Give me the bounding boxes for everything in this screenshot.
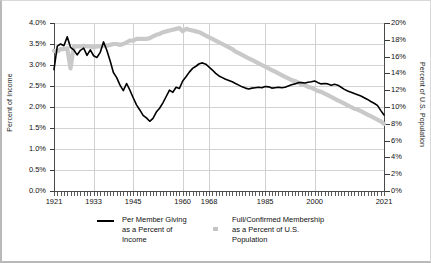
- x-tick-mark: [156, 192, 157, 196]
- x-tick-label: 1968: [201, 197, 218, 206]
- chart-legend: Per Member Giving as a Percent of Income…: [97, 215, 397, 259]
- x-tick-mark: [222, 192, 223, 196]
- y-tick-label-right: 6%: [391, 137, 402, 145]
- x-tick-mark: [318, 192, 319, 196]
- x-tick-mark: [292, 192, 293, 196]
- x-tick-mark: [84, 192, 85, 196]
- x-tick-label: 1933: [85, 197, 102, 206]
- x-tick-mark: [358, 192, 359, 196]
- legend-label-membership: Full/Confirmed Membership as a Percent o…: [232, 215, 324, 245]
- x-tick-mark: [331, 192, 332, 196]
- x-tick-mark: [275, 192, 276, 196]
- x-tick-mark: [262, 192, 263, 196]
- x-tick-mark: [311, 192, 312, 196]
- x-tick-mark: [127, 192, 128, 196]
- x-tick-mark: [77, 192, 78, 196]
- x-tick-mark: [285, 192, 286, 196]
- y-tick-label-right: 0%: [391, 187, 402, 195]
- y-tick-mark-right: [385, 174, 390, 175]
- x-tick-mark: [242, 192, 243, 196]
- x-tick-mark: [67, 192, 68, 196]
- x-tick-mark: [341, 192, 342, 196]
- y-tick-label-left: 3.0%: [29, 61, 46, 69]
- x-tick-mark: [199, 192, 200, 196]
- x-tick-mark: [338, 192, 339, 196]
- y-tick-mark-right: [385, 57, 390, 58]
- x-tick-mark: [344, 192, 345, 196]
- x-tick-label: 2021: [376, 197, 393, 206]
- x-tick-mark: [166, 192, 167, 196]
- x-tick-mark: [325, 192, 326, 196]
- x-tick-mark: [272, 192, 273, 196]
- x-tick-mark: [212, 192, 213, 196]
- x-tick-mark: [179, 192, 180, 196]
- y-tick-mark-right: [385, 107, 390, 108]
- y-tick-label-left: 1.5%: [29, 124, 46, 132]
- x-tick-mark: [206, 192, 207, 196]
- x-tick-mark: [110, 192, 111, 196]
- x-tick-mark: [176, 192, 177, 196]
- x-tick-mark: [137, 192, 138, 196]
- x-tick-mark: [117, 192, 118, 196]
- x-tick-mark: [104, 192, 105, 196]
- y-axis-right-title: Percent of U.S. Population: [419, 51, 426, 159]
- y-tick-label-right: 12%: [391, 86, 406, 94]
- x-tick-label: 1985: [257, 197, 274, 206]
- x-tick-mark: [100, 192, 101, 196]
- y-tick-mark-right: [385, 157, 390, 158]
- x-tick-mark: [364, 192, 365, 196]
- x-tick-mark: [315, 192, 316, 196]
- legend-line-swatch-icon: [97, 220, 114, 222]
- x-tick-mark: [153, 192, 154, 196]
- x-tick-mark: [113, 192, 114, 196]
- x-tick-mark: [203, 192, 204, 196]
- x-tick-mark: [371, 192, 372, 196]
- x-tick-mark: [259, 192, 260, 196]
- chart-figure: Percent of Income Percent of U.S. Popula…: [0, 0, 431, 263]
- x-tick-mark: [249, 192, 250, 196]
- x-tick-mark: [71, 192, 72, 196]
- x-tick-mark: [170, 192, 171, 196]
- y-axis-left-title: Percent of Income: [6, 67, 13, 139]
- x-tick-mark: [219, 192, 220, 196]
- series-layer: [54, 23, 385, 192]
- legend-square-swatch-icon: [213, 227, 218, 231]
- x-tick-mark: [295, 192, 296, 196]
- y-tick-label-right: 10%: [391, 103, 406, 111]
- x-tick-mark: [298, 192, 299, 196]
- x-tick-mark: [150, 192, 151, 196]
- y-tick-label-right: 16%: [391, 53, 406, 61]
- y-tick-label-left: 2.0%: [29, 103, 46, 111]
- x-tick-mark: [354, 192, 355, 196]
- y-tick-label-right: 18%: [391, 36, 406, 44]
- x-tick-mark: [282, 192, 283, 196]
- x-tick-mark: [57, 192, 58, 196]
- x-tick-mark: [54, 192, 55, 196]
- x-tick-mark: [140, 192, 141, 196]
- x-tick-mark: [80, 192, 81, 196]
- y-tick-mark-right: [385, 40, 390, 41]
- x-tick-mark: [265, 192, 266, 196]
- x-tick-mark: [377, 192, 378, 196]
- x-tick-label: 1945: [125, 197, 142, 206]
- y-tick-label-right: 20%: [391, 19, 406, 27]
- x-tick-mark: [186, 192, 187, 196]
- y-tick-mark-right: [385, 90, 390, 91]
- x-tick-mark: [335, 192, 336, 196]
- x-tick-mark: [123, 192, 124, 196]
- y-tick-label-left: 4.0%: [29, 19, 46, 27]
- x-tick-mark: [361, 192, 362, 196]
- y-tick-label-right: 14%: [391, 69, 406, 77]
- x-tick-mark: [232, 192, 233, 196]
- x-tick-mark: [305, 192, 306, 196]
- x-tick-mark: [252, 192, 253, 196]
- x-tick-mark: [209, 192, 210, 196]
- y-tick-mark-right: [385, 73, 390, 74]
- x-tick-mark: [239, 192, 240, 196]
- series-giving-line: [54, 37, 384, 121]
- x-tick-mark: [328, 192, 329, 196]
- x-tick-mark: [107, 192, 108, 196]
- x-tick-mark: [133, 192, 134, 196]
- x-tick-mark: [183, 192, 184, 196]
- x-tick-mark: [61, 192, 62, 196]
